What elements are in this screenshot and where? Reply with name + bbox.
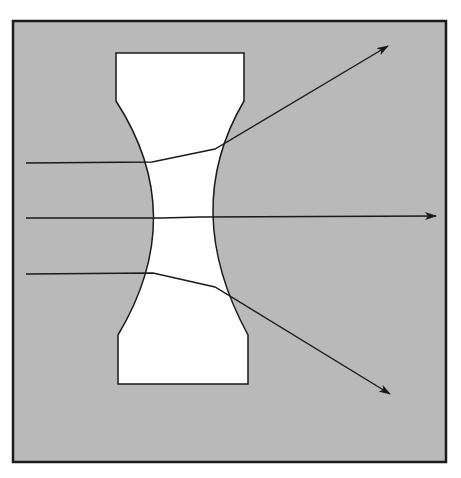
lens-ray-diagram — [0, 0, 461, 478]
